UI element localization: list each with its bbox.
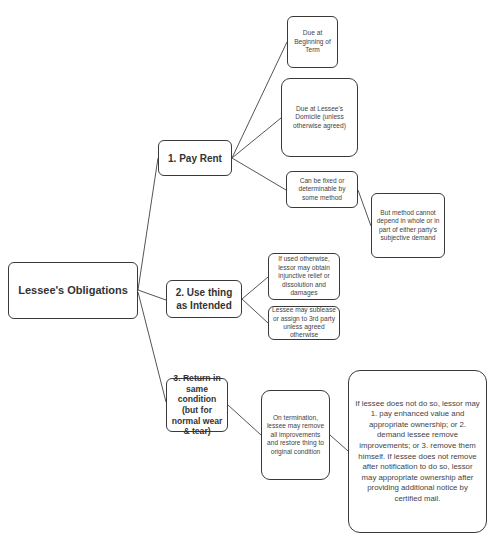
branch-label: 3. Return in same condition (but for nor… — [169, 373, 225, 437]
leaf-due-at-lessees-domicile: Due at Lessee's Domicile (unless otherwi… — [281, 78, 358, 157]
leaf-if-used-otherwise: If used otherwise, lessor may obtain inj… — [268, 253, 340, 300]
branch-node-pay-rent: 1. Pay Rent — [158, 140, 232, 176]
leaf-label: Due at Lessee's Domicile (unless otherwi… — [285, 105, 354, 130]
leaf-label: Due at Beginning of Term — [291, 29, 334, 54]
leaf-method-cannot-depend-on-subjective-demand: But method cannot depend in whole or in … — [371, 193, 445, 258]
leaf-can-be-fixed-or-determinable: Can be fixed or determinable by some met… — [286, 171, 358, 208]
leaf-if-lessee-does-not-do-so: If lessee does not do so, lessor may 1. … — [348, 370, 487, 533]
branch-node-use-thing-as-intended: 2. Use thing as Intended — [166, 280, 242, 318]
leaf-label: Can be fixed or determinable by some met… — [290, 177, 354, 202]
leaf-lessee-may-sublease: Lessee may sublease or assign to 3rd par… — [268, 306, 340, 340]
branch-node-return-in-same-condition: 3. Return in same condition (but for nor… — [166, 378, 228, 432]
branch-label: 1. Pay Rent — [168, 152, 222, 165]
leaf-on-termination-remove-improvements: On termination, lessee may remove all im… — [261, 390, 330, 480]
leaf-label: On termination, lessee may remove all im… — [265, 414, 326, 456]
leaf-label: Lessee may sublease or assign to 3rd par… — [272, 306, 336, 340]
branch-label: 2. Use thing as Intended — [170, 286, 238, 312]
leaf-label: But method cannot depend in whole or in … — [375, 209, 441, 243]
leaf-label: If used otherwise, lessor may obtain inj… — [272, 255, 336, 297]
root-node-label: Lessee's Obligations — [18, 283, 128, 297]
root-node-lessees-obligations: Lessee's Obligations — [8, 262, 138, 319]
leaf-due-at-beginning-of-term: Due at Beginning of Term — [287, 16, 338, 68]
leaf-label: If lessee does not do so, lessor may 1. … — [355, 399, 480, 504]
